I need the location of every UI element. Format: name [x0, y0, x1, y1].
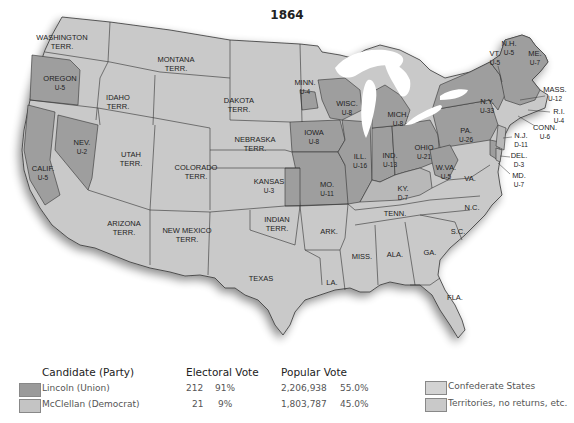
- label-texas: TEXAS: [249, 274, 274, 283]
- label-virginia: VA.: [464, 174, 476, 183]
- label-connecticut: CONN.U-6: [533, 123, 557, 140]
- legend-confederate: Confederate States: [448, 381, 535, 391]
- label-pennsylvania: PA.U-26: [459, 126, 473, 143]
- swatch-confederate: [425, 381, 447, 395]
- label-maryland: MD.U-7: [512, 171, 526, 188]
- legend-header-candidate: Candidate (Party): [42, 366, 134, 378]
- label-north-carolina: N.C.: [465, 203, 480, 212]
- mcclellan-electoral-votes: 21: [192, 399, 203, 409]
- lincoln-electoral-pct: 91%: [215, 383, 235, 393]
- label-kentucky: KY.D-7: [397, 184, 408, 201]
- lincoln-popular-pct: 55.0%: [340, 383, 369, 393]
- legend-header-electoral: Electoral Vote: [186, 366, 259, 378]
- legend-territories: Territories, no returns, etc.: [448, 398, 567, 408]
- label-mississippi: MISS.: [352, 252, 372, 261]
- label-new-jersey: N.J.D-11: [514, 131, 528, 148]
- label-indiana: IND.U-13: [383, 151, 398, 168]
- state-new-jersey: [496, 125, 506, 150]
- label-idaho: IDAHOTERR.: [106, 93, 130, 111]
- mcclellan-popular-pct: 45.0%: [340, 399, 369, 409]
- state-new-york: [432, 62, 505, 110]
- label-ohio: OHIOU-21: [414, 143, 433, 160]
- lincoln-electoral-votes: 212: [186, 383, 203, 393]
- candidate-lincoln: Lincoln (Union): [42, 383, 110, 393]
- swatch-lincoln: [19, 383, 41, 397]
- label-dakota: DAKOTATERR.: [224, 96, 254, 114]
- label-vermont: VT.U-5: [490, 49, 501, 66]
- label-missouri: MO.U-11: [320, 180, 334, 197]
- label-alabama: ALA.: [387, 250, 403, 259]
- label-illinois: ILL.U-16: [353, 152, 367, 169]
- label-maine: ME.U-7: [528, 49, 541, 66]
- state-delaware: [496, 148, 502, 162]
- label-tennessee: TENN.: [384, 209, 407, 218]
- label-utah: UTAHTERR.: [120, 150, 143, 168]
- label-indian-territory: INDIANTERR.: [264, 215, 289, 233]
- candidate-mcclellan: McClellan (Democrat): [42, 399, 140, 409]
- label-arkansas: ARK.: [320, 227, 338, 236]
- swatch-mcclellan: [19, 399, 41, 413]
- label-louisiana: LA.: [326, 278, 337, 287]
- mcclellan-popular-votes: 1,803,787: [281, 399, 327, 409]
- label-florida: FLA.: [447, 293, 463, 302]
- us-election-map: WASHINGTONTERR. MONTANATERR. OREGONU-5 I…: [0, 0, 574, 360]
- label-south-carolina: S.C.: [451, 227, 466, 236]
- swatch-territories: [425, 398, 447, 412]
- state-kansas-east: [285, 168, 300, 206]
- legend-header-popular: Popular Vote: [281, 366, 347, 378]
- legend: Candidate (Party) Electoral Vote Popular…: [0, 366, 574, 423]
- label-georgia: GA.: [424, 248, 437, 257]
- label-new-york: N.Y.U-33: [480, 97, 494, 114]
- mcclellan-electoral-pct: 9%: [218, 399, 232, 409]
- label-delaware: DEL.D-3: [511, 151, 528, 168]
- label-rhode-island: R.I.U-4: [553, 107, 565, 124]
- lincoln-popular-votes: 2,206,938: [281, 383, 327, 393]
